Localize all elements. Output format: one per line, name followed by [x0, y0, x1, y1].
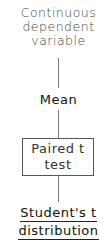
connector-line [58, 110, 59, 138]
node-text-line: dependent [0, 20, 105, 34]
connector-line [58, 176, 59, 202]
node-text-line: Paired t [23, 141, 93, 157]
node-text-line: distribution [18, 223, 98, 240]
node-mean: Mean [0, 92, 105, 108]
node-text-line: Continuous [0, 6, 105, 20]
node-students-t-distribution: Student's t distribution [0, 204, 105, 240]
node-continuous-dependent-variable: Continuous dependent variable [0, 6, 105, 48]
connector-line [58, 58, 59, 88]
node-text-line: Student's t [20, 205, 96, 222]
node-text-line: test [23, 157, 93, 173]
node-text-line: variable [0, 34, 105, 48]
node-paired-t-test-box: Paired t test [22, 138, 94, 176]
